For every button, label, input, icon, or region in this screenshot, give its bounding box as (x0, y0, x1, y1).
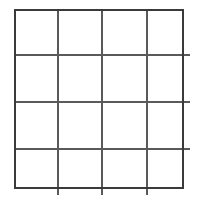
grid-cell-r4c4[interactable] (147, 149, 191, 195)
grid-canvas (0, 0, 197, 201)
grid-container[interactable] (14, 9, 190, 195)
table-row (14, 102, 190, 149)
grid-cell-r2c4[interactable] (147, 55, 191, 102)
grid-cell-r4c1[interactable] (14, 149, 58, 195)
grid-cell-r3c3[interactable] (102, 102, 147, 149)
grid-body (14, 9, 190, 195)
table-row (14, 55, 190, 102)
grid-cell-r4c2[interactable] (58, 149, 103, 195)
grid-cell-r2c1[interactable] (14, 55, 58, 102)
grid-cell-r1c4[interactable] (147, 9, 191, 55)
grid-cell-r1c1[interactable] (14, 9, 58, 55)
grid-cell-r2c3[interactable] (102, 55, 147, 102)
table-row (14, 149, 190, 195)
grid-cell-r3c4[interactable] (147, 102, 191, 149)
grid-cell-r1c2[interactable] (58, 9, 103, 55)
grid-cell-r4c3[interactable] (102, 149, 147, 195)
table-row (14, 9, 190, 55)
grid-cell-r2c2[interactable] (58, 55, 103, 102)
grid-cell-r3c2[interactable] (58, 102, 103, 149)
grid-cell-r3c1[interactable] (14, 102, 58, 149)
grid-cell-r1c3[interactable] (102, 9, 147, 55)
